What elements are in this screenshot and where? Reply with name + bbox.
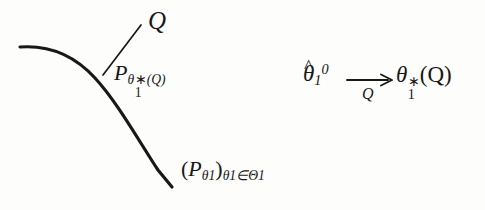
label-arrow-subscript: Q xyxy=(362,86,374,102)
label-model-family: (Pθ1)θ1∈Θ1 xyxy=(181,158,265,182)
label-projection-measure: Pθ∗1(Q) xyxy=(114,62,166,99)
hat-accent-icon: ^ xyxy=(304,57,313,77)
convergence-arrow xyxy=(347,75,392,86)
diagram-canvas: Q Pθ∗1(Q) (Pθ1)θ1∈Θ1 ^θ10 Q θ∗1(Q) xyxy=(0,0,485,210)
label-q-point: Q xyxy=(148,8,166,33)
label-limit-parameter: θ∗1(Q) xyxy=(396,63,452,101)
label-initial-estimator: ^θ10 xyxy=(303,62,329,88)
